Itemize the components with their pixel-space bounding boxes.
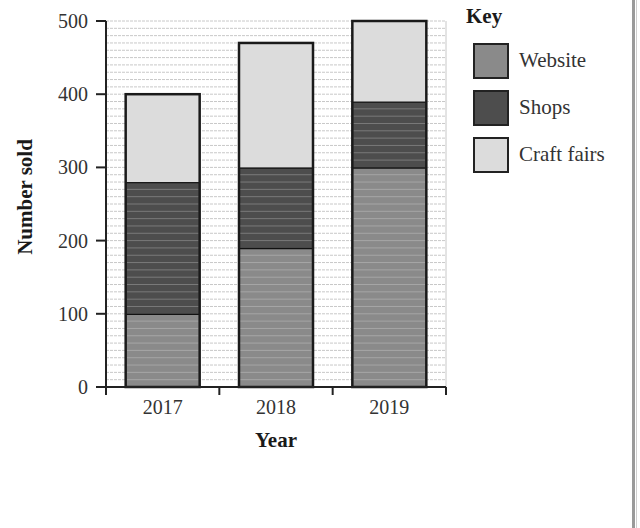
legend-item-craft-fairs: Craft fairs	[466, 131, 605, 178]
page-edge-divider	[632, 0, 635, 528]
legend-title: Key	[466, 4, 605, 29]
bar-segment-website	[239, 248, 313, 387]
legend-item-website: Website	[466, 37, 605, 84]
bar-2017	[126, 94, 200, 387]
page-edge-divider-shadow	[636, 0, 637, 528]
x-axis-ticks: 201720182019	[106, 387, 446, 418]
legend-label: Shops	[519, 95, 570, 120]
y-tick-label: 100	[58, 303, 88, 325]
y-tick-label: 400	[58, 83, 88, 105]
bar-segment-craft-fairs	[239, 43, 313, 167]
y-axis-title: Number sold	[13, 139, 37, 255]
x-axis-title: Year	[255, 428, 297, 452]
bar-2018	[239, 43, 313, 387]
legend-label: Craft fairs	[519, 142, 605, 167]
bars	[126, 21, 427, 387]
legend: Key Website Shops Craft fairs	[466, 4, 605, 178]
legend-label: Website	[519, 48, 586, 73]
x-tick-label: 2017	[143, 396, 183, 418]
bar-segment-craft-fairs	[352, 21, 426, 102]
y-tick-label: 300	[58, 156, 88, 178]
bar-2019	[352, 21, 426, 387]
bar-segment-craft-fairs	[126, 94, 200, 182]
y-tick-label: 0	[78, 376, 88, 398]
x-tick-label: 2019	[369, 396, 409, 418]
bar-segment-shops	[352, 102, 426, 168]
y-axis-ticks: 0100200300400500	[58, 10, 106, 398]
bar-segment-shops	[239, 167, 313, 248]
legend-item-shops: Shops	[466, 84, 605, 131]
y-tick-label: 200	[58, 230, 88, 252]
website-swatch	[473, 43, 509, 79]
craft-fairs-swatch	[473, 137, 509, 173]
shops-swatch	[473, 90, 509, 126]
x-tick-label: 2018	[256, 396, 296, 418]
y-tick-label: 500	[58, 10, 88, 32]
